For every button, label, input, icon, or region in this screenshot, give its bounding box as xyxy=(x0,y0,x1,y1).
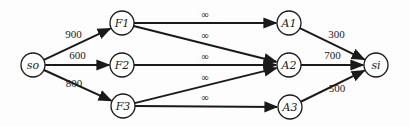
edge-capacity-label: 700 xyxy=(324,49,341,61)
node-label: F1 xyxy=(114,17,130,30)
node-label: F2 xyxy=(114,59,130,72)
edge-capacity-label: 600 xyxy=(69,49,86,61)
edge-so-F3: 800 xyxy=(44,70,111,101)
edge-capacity-label: 500 xyxy=(329,82,346,94)
edge-F1-A1: ∞ xyxy=(134,9,276,23)
node-label: A1 xyxy=(281,17,297,30)
node-label: si xyxy=(371,59,380,72)
node-label: A3 xyxy=(282,101,298,114)
node-A3: A3 xyxy=(278,95,302,119)
edge-capacity-label: ∞ xyxy=(201,51,209,62)
node-si: si xyxy=(364,53,388,77)
edge-capacity-label: 300 xyxy=(328,28,345,40)
network-graph: 900600800∞∞∞∞∞300700500 soF1F2F3A1A2A3si xyxy=(0,0,410,126)
edge-capacity-label: ∞ xyxy=(201,92,209,103)
node-A1: A1 xyxy=(277,11,301,35)
edge-A2-si: 700 xyxy=(301,49,363,65)
node-label: F3 xyxy=(115,100,131,113)
edge-F3-A3: ∞ xyxy=(135,92,277,106)
arrow-line xyxy=(135,106,277,107)
edge-F2-A2: ∞ xyxy=(134,51,276,65)
edge-capacity-label: ∞ xyxy=(201,30,209,41)
edge-capacity-label: ∞ xyxy=(201,9,209,20)
node-label: A2 xyxy=(281,59,297,72)
node-F3: F3 xyxy=(111,94,135,118)
edges: 900600800∞∞∞∞∞300700500 xyxy=(44,9,364,107)
edge-so-F2: 600 xyxy=(45,49,109,65)
flow-network-diagram: 900600800∞∞∞∞∞300700500 soF1F2F3A1A2A3si xyxy=(0,0,410,126)
node-A2: A2 xyxy=(277,53,301,77)
node-F2: F2 xyxy=(110,53,134,77)
edge-A3-si: 500 xyxy=(301,71,365,102)
node-F1: F1 xyxy=(110,11,134,35)
node-label: so xyxy=(27,59,40,72)
edge-capacity-label: 900 xyxy=(65,28,82,40)
edge-capacity-label: ∞ xyxy=(201,72,209,83)
node-so: so xyxy=(21,53,45,77)
edge-capacity-label: 800 xyxy=(66,77,83,89)
